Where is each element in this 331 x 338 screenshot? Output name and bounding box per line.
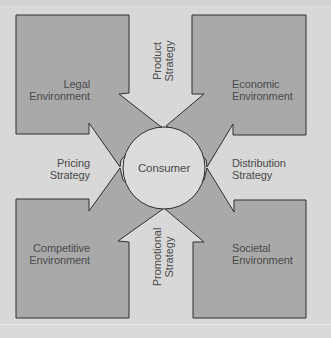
- bottom-edge: [0, 324, 331, 338]
- legal-environment-label: Legal Environment: [20, 78, 90, 102]
- product-strategy-label: Product Strategy: [151, 26, 175, 96]
- competitive-environment-label: Competitive Environment: [20, 242, 90, 266]
- societal-environment-label: Societal Environment: [232, 242, 312, 266]
- consumer-label: Consumer: [124, 162, 204, 174]
- pricing-strategy-label: Pricing Strategy: [40, 157, 90, 181]
- distribution-strategy-label: Distribution Strategy: [232, 157, 312, 181]
- economic-environment-label: Economic Environment: [232, 78, 312, 102]
- promotional-strategy-label: Promotional Strategy: [151, 222, 175, 292]
